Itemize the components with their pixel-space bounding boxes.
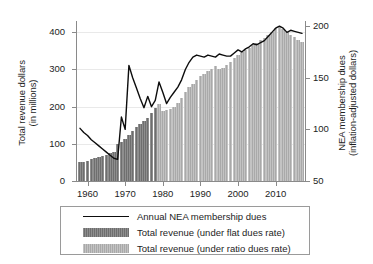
y-axis-right-tick-label: 100 [313,123,341,134]
y-axis-right-title-line1: NEA membership dues [336,28,347,178]
y-axis-left-tick-label: 0 [37,175,65,186]
y-axis-left-tick-label: 100 [37,138,65,149]
y-axis-left-title: Total revenue dollars (in millions) [16,28,38,178]
axis-line-right [305,21,306,181]
x-axis-tick-label: 1980 [146,188,180,199]
legend-item-flat: Total revenue (under flat dues rate) [61,225,309,240]
x-axis-tick [88,182,89,186]
y-axis-right-tick [306,26,310,27]
legend-label-flat: Total revenue (under flat dues rate) [137,227,285,238]
y-axis-right-tick-label: 50 [313,175,341,186]
legend-swatch-flat-icon [83,228,129,237]
y-axis-right-tick [306,129,310,130]
axis-line-bottom [76,181,306,182]
chart-legend: Annual NEA membership dues Total revenue… [60,206,310,255]
y-axis-right-tick [306,181,310,182]
x-axis-tick [200,182,201,186]
y-axis-left-tick [72,69,76,70]
legend-item-line: Annual NEA membership dues [61,209,309,224]
y-axis-right-tick-label: 200 [313,20,341,31]
legend-label-ratio: Total revenue (under ratio dues rate) [137,243,291,254]
y-axis-left-title-line1: Total revenue dollars [16,28,27,178]
plot-area [77,21,305,181]
x-axis-tick-label: 2000 [221,188,255,199]
y-axis-left-tick [72,107,76,108]
x-axis-tick [163,182,164,186]
y-axis-left-tick-label: 200 [37,101,65,112]
y-axis-left-tick [72,181,76,182]
x-axis-tick-label: 1960 [71,188,105,199]
y-axis-left-tick [72,144,76,145]
x-axis-tick [238,182,239,186]
legend-swatch-line-icon [83,212,129,221]
line-series [77,21,305,181]
y-axis-left-tick [72,32,76,33]
legend-swatch-ratio-icon [83,244,129,253]
x-axis-tick [125,182,126,186]
annual-nea-membership-dues-line [80,26,302,159]
x-axis-tick-label: 2010 [259,188,293,199]
legend-label-line: Annual NEA membership dues [137,211,266,222]
legend-item-ratio: Total revenue (under ratio dues rate) [61,241,309,256]
chart-figure: Total revenue dollars (in millions) NEA … [0,0,373,264]
y-axis-right-tick-label: 150 [313,72,341,83]
x-axis-tick [276,182,277,186]
y-axis-right-tick [306,78,310,79]
y-axis-left-tick-label: 300 [37,63,65,74]
x-axis-tick-label: 1990 [183,188,217,199]
y-axis-right-title: NEA membership dues (inflation-adjusted … [336,28,358,178]
y-axis-left-tick-label: 400 [37,26,65,37]
y-axis-right-title-line2: (inflation-adjusted dollars) [347,28,358,178]
x-axis-tick-label: 1970 [108,188,142,199]
